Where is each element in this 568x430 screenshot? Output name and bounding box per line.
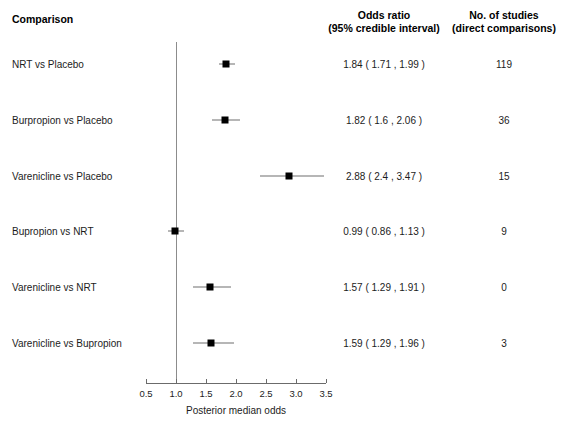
row-label: NRT vs Placebo bbox=[12, 59, 84, 70]
row-odds-ratio-value: 2.88 ( 2.4 , 3.47 ) bbox=[300, 170, 468, 181]
point-estimate-marker bbox=[172, 228, 179, 235]
column-header-odds-ratio-line1: Odds ratio bbox=[358, 9, 411, 21]
row-studies-count: 36 bbox=[452, 114, 556, 125]
row-odds-ratio-value: 0.99 ( 0.86 , 1.13 ) bbox=[300, 226, 468, 237]
row-label: Varenicline vs Placebo bbox=[12, 170, 112, 181]
column-header-studies-line2: (direct comparisons) bbox=[452, 22, 556, 35]
column-header-comparison: Comparison bbox=[12, 13, 73, 26]
x-axis-tick bbox=[176, 379, 177, 383]
reference-line-null-effect bbox=[176, 42, 177, 383]
x-axis-tick bbox=[296, 379, 297, 383]
row-studies-count: 0 bbox=[452, 282, 556, 293]
x-axis-tick bbox=[326, 379, 327, 383]
column-header-odds-ratio-line2: (95% credible interval) bbox=[300, 22, 468, 35]
point-estimate-marker bbox=[223, 61, 230, 68]
column-header-studies: No. of studies (direct comparisons) bbox=[452, 9, 556, 35]
row-label: Varenicline vs NRT bbox=[12, 282, 97, 293]
row-odds-ratio-value: 1.57 ( 1.29 , 1.91 ) bbox=[300, 282, 468, 293]
forest-plot: Comparison Odds ratio (95% credible inte… bbox=[0, 0, 568, 430]
row-label: Varenicline vs Bupropion bbox=[12, 338, 122, 349]
x-axis-label: Posterior median odds bbox=[186, 405, 286, 416]
row-odds-ratio-value: 1.82 ( 1.6 , 2.06 ) bbox=[300, 114, 468, 125]
point-estimate-marker bbox=[285, 172, 292, 179]
point-estimate-marker bbox=[207, 284, 214, 291]
row-label: Burpropion vs Placebo bbox=[12, 114, 113, 125]
x-axis-tick bbox=[146, 379, 147, 383]
x-axis-tick bbox=[206, 379, 207, 383]
row-odds-ratio-value: 1.84 ( 1.71 , 1.99 ) bbox=[300, 59, 468, 70]
x-axis-tick-label: 1.5 bbox=[199, 388, 212, 399]
row-label: Bupropion vs NRT bbox=[12, 226, 94, 237]
x-axis-tick-label: 3.0 bbox=[289, 388, 302, 399]
x-axis-tick-label: 0.5 bbox=[139, 388, 152, 399]
point-estimate-marker bbox=[222, 116, 229, 123]
row-studies-count: 3 bbox=[452, 338, 556, 349]
x-axis-tick-label: 2.5 bbox=[259, 388, 272, 399]
column-header-studies-line1: No. of studies bbox=[469, 9, 538, 21]
row-studies-count: 15 bbox=[452, 170, 556, 181]
point-estimate-marker bbox=[208, 340, 215, 347]
x-axis-tick bbox=[266, 379, 267, 383]
x-axis-tick bbox=[236, 379, 237, 383]
column-header-odds-ratio: Odds ratio (95% credible interval) bbox=[300, 9, 468, 35]
row-odds-ratio-value: 1.59 ( 1.29 , 1.96 ) bbox=[300, 338, 468, 349]
x-axis-tick-label: 1.0 bbox=[169, 388, 182, 399]
row-studies-count: 9 bbox=[452, 226, 556, 237]
row-studies-count: 119 bbox=[452, 59, 556, 70]
x-axis-line bbox=[146, 383, 326, 384]
x-axis-tick-label: 2.0 bbox=[229, 388, 242, 399]
x-axis-tick-label: 3.5 bbox=[319, 388, 332, 399]
